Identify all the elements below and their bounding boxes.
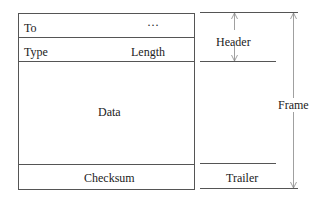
- diagram-lines: [0, 0, 321, 200]
- frame-box-outline: [19, 14, 195, 190]
- field-checksum: Checksum: [84, 171, 135, 185]
- field-data: Data: [98, 105, 121, 119]
- field-type: Type: [24, 45, 48, 59]
- field-length: Length: [131, 45, 165, 59]
- label-frame: Frame: [277, 98, 310, 112]
- label-trailer: Trailer: [226, 171, 258, 185]
- field-to: To: [24, 21, 37, 35]
- label-header: Header: [216, 35, 251, 49]
- field-ellipsis: ···: [147, 18, 159, 32]
